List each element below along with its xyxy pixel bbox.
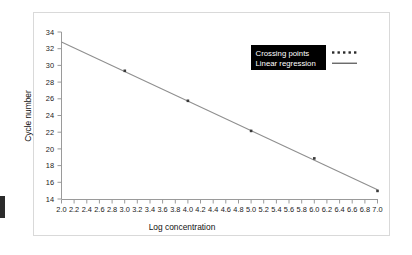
y-tick-label: 28 <box>46 78 54 87</box>
y-axis-title: Cycle number <box>23 90 33 142</box>
x-tick-label: 6.6 <box>347 205 357 214</box>
x-tick-label: 6.0 <box>309 205 319 214</box>
x-tick-label: 4.2 <box>195 205 205 214</box>
x-tick-label: 5.2 <box>259 205 269 214</box>
x-axis-ticks <box>62 200 378 204</box>
x-axis-tick-labels: 2.0 2.2 2.4 2.6 2.8 3.0 3.2 3.4 3.6 3.8 … <box>56 205 382 214</box>
x-tick-label: 3.0 <box>120 205 130 214</box>
x-tick-label: 2.0 <box>56 205 66 214</box>
chart-canvas: 34 32 30 28 26 24 22 20 18 16 14 <box>0 0 412 255</box>
data-point <box>124 70 127 73</box>
x-tick-label: 4.4 <box>208 205 218 214</box>
y-tick-label: 24 <box>46 111 54 120</box>
x-tick-label: 4.6 <box>221 205 231 214</box>
y-tick-label: 26 <box>46 94 54 103</box>
x-tick-label: 6.2 <box>322 205 332 214</box>
crossing-point-markers <box>124 70 379 193</box>
x-tick-label: 5.4 <box>271 205 281 214</box>
x-tick-label: 2.4 <box>82 205 92 214</box>
x-tick-label: 6.4 <box>334 205 344 214</box>
legend-label-crossing-points: Crossing points <box>256 49 310 58</box>
data-point <box>250 130 253 133</box>
x-tick-label: 3.6 <box>157 205 167 214</box>
y-tick-label: 30 <box>46 61 54 70</box>
legend-marker-dotted-icon <box>332 51 356 53</box>
y-axis-ticks <box>58 32 62 199</box>
x-tick-label: 5.6 <box>284 205 294 214</box>
x-tick-label: 5.0 <box>246 205 256 214</box>
x-tick-label: 4.8 <box>233 205 243 214</box>
linear-regression-line <box>62 42 378 190</box>
y-tick-label: 20 <box>46 145 54 154</box>
x-tick-label: 7.0 <box>372 205 382 214</box>
x-tick-label: 2.8 <box>107 205 117 214</box>
x-axis-title: Log concentration <box>149 222 216 232</box>
x-tick-label: 2.6 <box>94 205 104 214</box>
y-tick-label: 18 <box>46 161 54 170</box>
data-point <box>187 100 190 103</box>
data-point <box>313 157 316 160</box>
y-tick-label: 22 <box>46 128 54 137</box>
y-tick-label: 32 <box>46 44 54 53</box>
chart-legend: Crossing points Linear regression <box>251 45 357 70</box>
data-point <box>376 190 379 193</box>
y-tick-label: 34 <box>46 28 54 37</box>
x-tick-label: 2.2 <box>69 205 79 214</box>
x-tick-label: 6.8 <box>360 205 370 214</box>
legend-label-linear-regression: Linear regression <box>256 59 316 68</box>
x-tick-label: 3.4 <box>145 205 155 214</box>
x-tick-label: 5.8 <box>297 205 307 214</box>
y-tick-label: 16 <box>46 178 54 187</box>
y-axis-tick-labels: 34 32 30 28 26 24 22 20 18 16 14 <box>46 28 54 204</box>
x-tick-label: 4.0 <box>183 205 193 214</box>
x-tick-label: 3.8 <box>170 205 180 214</box>
x-tick-label: 3.2 <box>132 205 142 214</box>
y-tick-label: 14 <box>46 195 54 204</box>
